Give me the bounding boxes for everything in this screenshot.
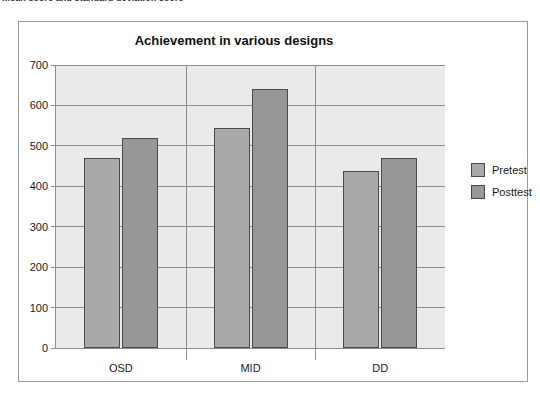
x-tick-label-mid: MID bbox=[240, 362, 260, 374]
y-tick-label-0: 0 bbox=[8, 342, 48, 354]
bar-osd-posttest bbox=[122, 138, 158, 348]
legend-item-pretest: Pretest bbox=[471, 160, 540, 180]
bar-dd-pretest bbox=[343, 171, 379, 348]
x-tick-label-osd: OSD bbox=[109, 362, 133, 374]
bar-osd-pretest bbox=[84, 158, 120, 348]
y-tick-mark-300 bbox=[51, 226, 56, 227]
clipped-caption-strip: mean score and standard deviation score bbox=[0, 0, 540, 9]
y-tick-mark-400 bbox=[51, 186, 56, 187]
y-tick-mark-500 bbox=[51, 145, 56, 146]
legend-swatch-posttest bbox=[471, 185, 485, 199]
y-tick-label-200: 200 bbox=[8, 261, 48, 273]
bar-mid-posttest bbox=[252, 89, 288, 348]
y-tick-label-600: 600 bbox=[8, 99, 48, 111]
y-tick-label-400: 400 bbox=[8, 180, 48, 192]
clipped-caption-text: mean score and standard deviation score bbox=[2, 0, 183, 3]
y-tick-mark-0 bbox=[51, 348, 56, 349]
bar-dd-posttest bbox=[381, 158, 417, 348]
x-tick-label-dd: DD bbox=[372, 362, 388, 374]
legend-item-posttest: Posttest bbox=[471, 182, 540, 202]
legend-swatch-pretest bbox=[471, 163, 485, 177]
chart-title: Achievement in various designs bbox=[19, 33, 449, 48]
bar-mid-pretest bbox=[214, 128, 250, 348]
y-tick-label-700: 700 bbox=[8, 59, 48, 71]
y-axis-line bbox=[55, 65, 56, 348]
gridline-500 bbox=[56, 145, 445, 146]
y-tick-label-500: 500 bbox=[8, 140, 48, 152]
chart-legend: PretestPosttest bbox=[471, 160, 540, 204]
legend-label-posttest: Posttest bbox=[492, 186, 532, 198]
y-tick-label-100: 100 bbox=[8, 302, 48, 314]
y-tick-mark-700 bbox=[51, 65, 56, 66]
plot-area bbox=[56, 65, 445, 348]
y-tick-mark-600 bbox=[51, 105, 56, 106]
y-tick-mark-100 bbox=[51, 307, 56, 308]
category-separator-1 bbox=[186, 65, 187, 360]
chart-frame: Achievement in various designs 010020030… bbox=[18, 21, 528, 382]
gridline-600 bbox=[56, 105, 445, 106]
gridline-700 bbox=[56, 65, 445, 66]
y-tick-mark-200 bbox=[51, 267, 56, 268]
y-tick-label-300: 300 bbox=[8, 221, 48, 233]
legend-label-pretest: Pretest bbox=[492, 164, 527, 176]
category-separator-2 bbox=[315, 65, 316, 360]
